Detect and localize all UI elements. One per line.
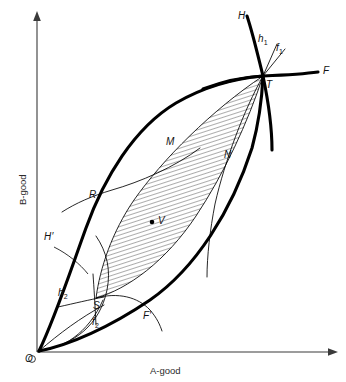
diagram-canvas — [0, 0, 346, 382]
label-point-R: R — [89, 190, 96, 200]
label-region-N: N — [224, 150, 231, 160]
label-f2-sub: 2 — [95, 322, 99, 329]
label-curve-F: F — [323, 66, 329, 76]
label-curve-h2: h2 — [58, 288, 68, 300]
label-region-M: M — [166, 137, 175, 147]
label-h1-sub: 1 — [264, 39, 268, 46]
label-h2-sub: 2 — [64, 293, 68, 300]
economics-contract-curve-figure: H h1 f1 F T M N R V H′ h2 S f2 F′ O A-go… — [0, 0, 346, 382]
label-f1-sub: 1 — [279, 48, 283, 55]
label-curve-H: H — [238, 11, 245, 21]
x-axis-title: A-good — [150, 366, 181, 376]
tangent-h1-line — [263, 44, 277, 76]
x-axis-arrowhead — [328, 348, 338, 356]
y-axis-arrowhead — [33, 11, 41, 21]
label-curve-h1: h1 — [258, 34, 268, 46]
label-point-S: S — [93, 301, 100, 311]
point-V-dot — [150, 220, 155, 225]
label-curve-f2: f2 — [92, 317, 99, 329]
label-point-V: V — [158, 216, 165, 226]
y-axis-title: B-good — [18, 174, 28, 205]
label-curve-H-prime: H′ — [44, 232, 54, 242]
label-curve-f1: f1 — [276, 43, 283, 55]
label-curve-F-prime: F′ — [143, 311, 151, 321]
label-origin-O: O — [25, 354, 33, 364]
label-point-T: T — [266, 80, 272, 90]
